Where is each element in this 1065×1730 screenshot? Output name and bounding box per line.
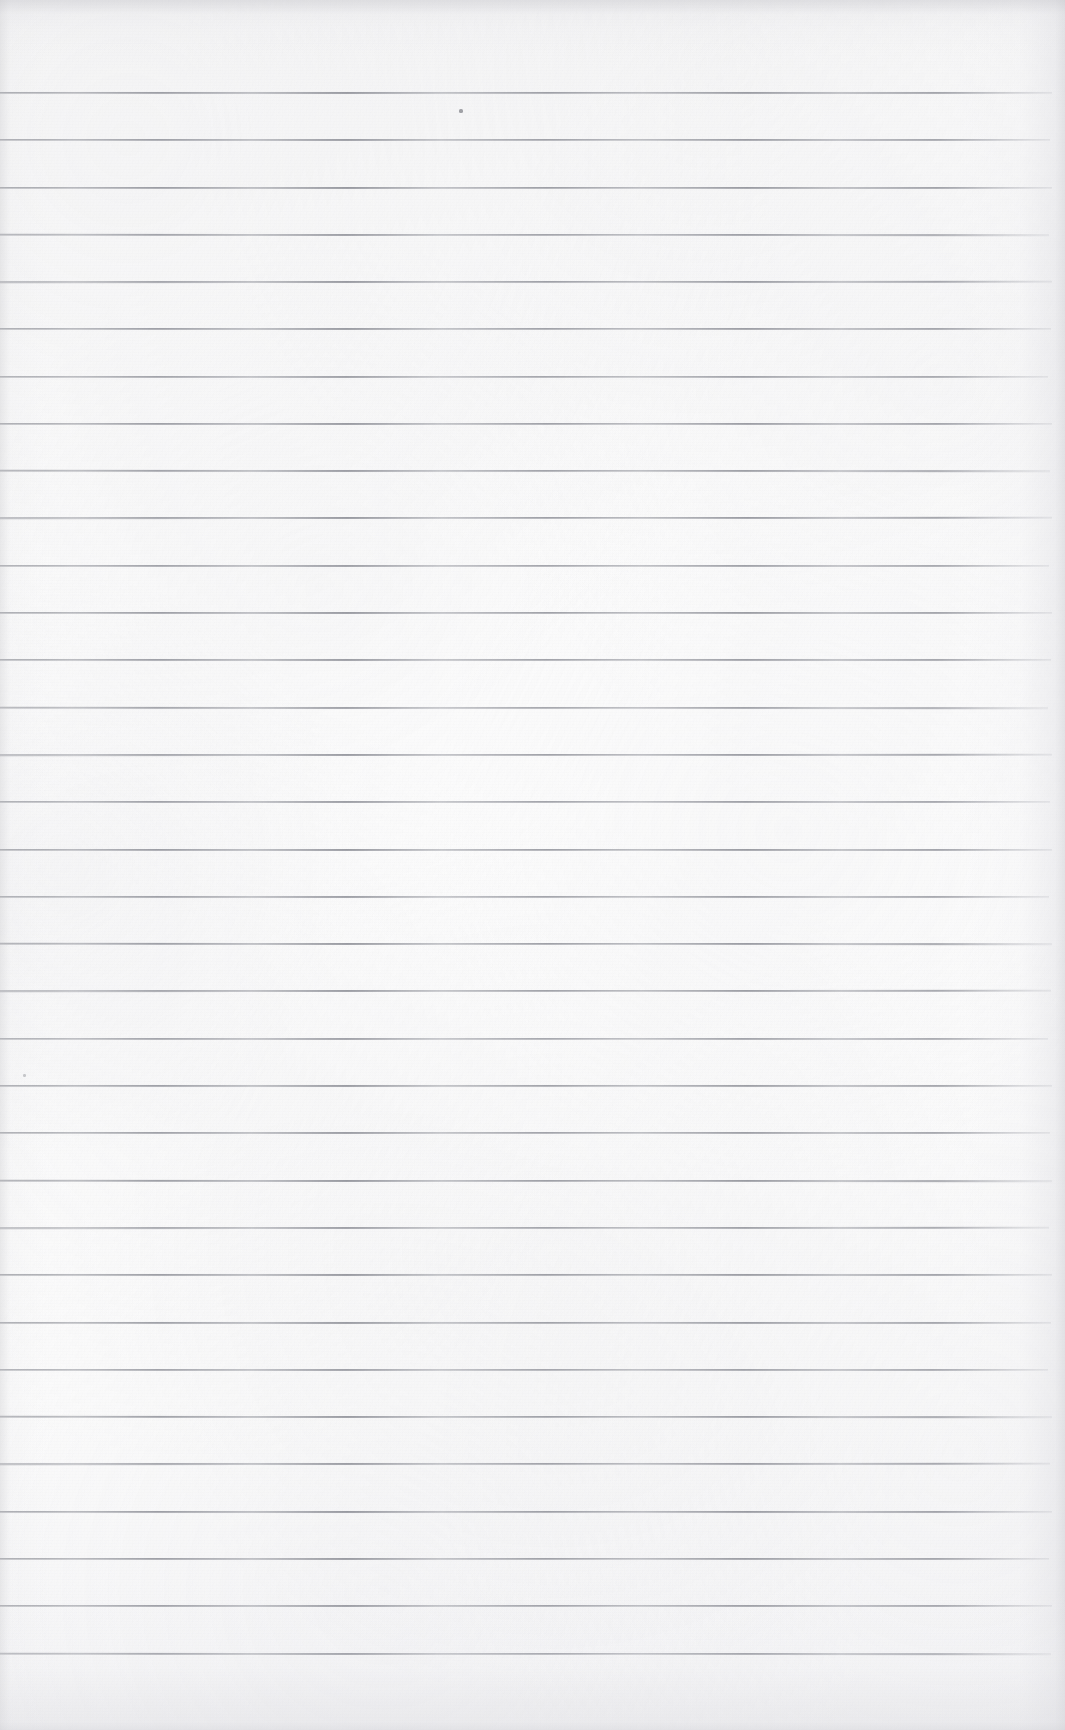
paper-background bbox=[0, 0, 1065, 1730]
scanned-notebook-page bbox=[0, 0, 1065, 1730]
